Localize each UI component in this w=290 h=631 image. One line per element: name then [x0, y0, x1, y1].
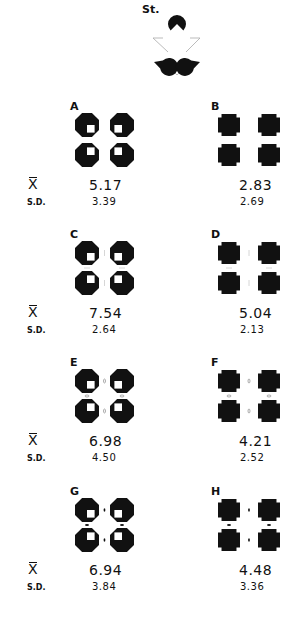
mean-label: X [28, 176, 38, 192]
mean-label: X [28, 432, 38, 448]
sd-value-c: 2.64 [92, 324, 116, 335]
sd-value-e: 4.50 [92, 452, 116, 463]
pacman-top [168, 15, 186, 30]
mean-value-d: 5.04 [239, 305, 272, 321]
sd-value-d: 2.13 [240, 324, 264, 335]
standard-kanizsa-figure [0, 0, 290, 90]
sd-value-f: 2.52 [240, 452, 264, 463]
sd-value-h: 3.36 [240, 581, 264, 592]
mean-value-c: 7.54 [89, 305, 122, 321]
mean-value-e: 6.98 [89, 433, 122, 449]
sd-value-a: 3.39 [92, 196, 116, 207]
sd-label: S.D. [27, 454, 45, 463]
pacman-bottom-right [176, 58, 200, 76]
sd-label: S.D. [27, 198, 45, 207]
stimulus-f [206, 366, 286, 436]
stimulus-b [206, 110, 286, 180]
mean-value-b: 2.83 [239, 177, 272, 193]
sd-value-b: 2.69 [240, 196, 264, 207]
mean-value-f: 4.21 [239, 433, 272, 449]
stimulus-g [65, 495, 145, 565]
mean-value-g: 6.94 [89, 562, 122, 578]
stimulus-e [65, 366, 145, 436]
mean-value-a: 5.17 [89, 177, 122, 193]
mean-label: X [28, 561, 38, 577]
sd-label: S.D. [27, 583, 45, 592]
stimulus-a [65, 110, 145, 180]
stimulus-d [206, 238, 286, 308]
pacman-bottom-left [154, 58, 178, 76]
sd-label: S.D. [27, 326, 45, 335]
mean-value-h: 4.48 [239, 562, 272, 578]
stimulus-c [65, 238, 145, 308]
stimulus-h [206, 495, 286, 565]
mean-label: X [28, 304, 38, 320]
sd-value-g: 3.84 [92, 581, 116, 592]
